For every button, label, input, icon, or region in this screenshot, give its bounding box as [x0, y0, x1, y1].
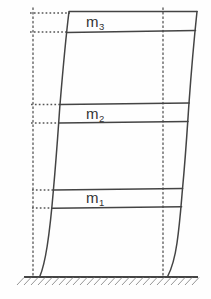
undeformed-reference-axes: [33, 8, 163, 277]
hatch-line: [52, 278, 59, 286]
floor-slab-m2-top-line: [60, 103, 189, 105]
right-column-curve: [168, 12, 197, 277]
hatch-line: [80, 278, 87, 286]
hatch-line: [66, 278, 73, 286]
mass-label-m1: m1: [86, 190, 104, 205]
hatch-line: [108, 278, 115, 286]
floor-slab-m2: [59, 103, 190, 123]
hatch-line: [185, 278, 192, 286]
hatch-line: [87, 278, 94, 286]
hatch-line: [94, 278, 101, 286]
shear-building-figure: m3 m2 m1: [0, 0, 211, 299]
hatch-line: [129, 278, 136, 286]
displacement-leader-lines: [30, 13, 70, 208]
floor-slab-m1-bottom-line: [52, 207, 181, 208]
hatch-line: [150, 278, 157, 286]
ground-support: [17, 277, 199, 285]
hatch-line: [136, 278, 143, 286]
hatch-line: [157, 278, 164, 286]
hatch-line: [59, 278, 66, 286]
hatch-line: [164, 278, 171, 286]
hatch-line: [122, 278, 129, 286]
frame-diagram-svg: [0, 0, 211, 299]
hatch-line: [17, 278, 24, 286]
hatch-line: [143, 278, 150, 286]
mass-label-m3-base: m: [86, 13, 99, 30]
mass-label-m2: m2: [86, 106, 104, 121]
mass-label-m1-subscript: 1: [99, 197, 104, 208]
mass-label-m2-subscript: 2: [99, 113, 104, 124]
hatch-line: [45, 278, 52, 286]
frame-columns: [40, 12, 197, 277]
hatch-line: [73, 278, 80, 286]
left-column-curve: [40, 12, 69, 277]
hatch-line: [192, 278, 199, 286]
floor-slab-m3-bottom-line: [67, 31, 196, 33]
hatch-line: [178, 278, 185, 286]
hatch-line: [24, 278, 31, 286]
mass-label-m1-base: m: [86, 189, 99, 206]
hatch-line: [31, 278, 38, 286]
floor-slab-m2-bottom-line: [59, 122, 188, 124]
mass-label-m3: m3: [86, 14, 104, 29]
mass-label-m2-base: m: [86, 105, 99, 122]
hatch-line: [101, 278, 108, 286]
mass-label-m3-subscript: 3: [99, 21, 104, 32]
hatch-line: [115, 278, 122, 286]
ground-hatching: [17, 278, 199, 286]
hatch-line: [38, 278, 45, 286]
hatch-line: [171, 278, 178, 286]
floor-slabs: [52, 12, 197, 209]
